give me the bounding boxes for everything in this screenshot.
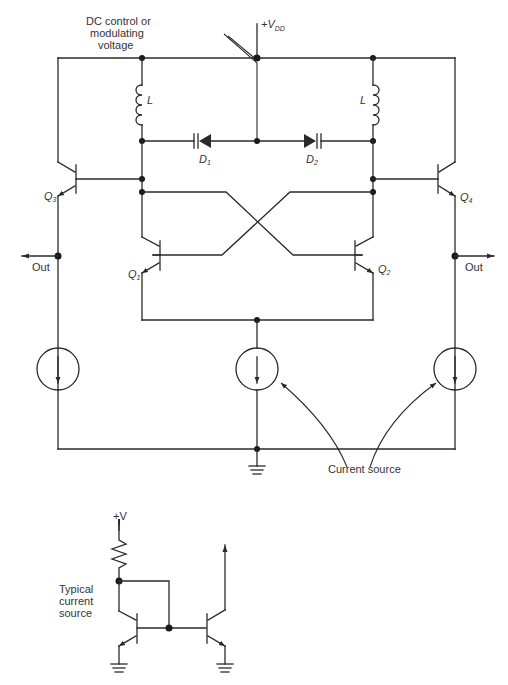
- out-right-label: Out: [465, 261, 483, 273]
- schematic-canvas: +VDD DC control or modulating voltage L …: [0, 0, 508, 685]
- transistor-q2: Q2: [355, 237, 391, 320]
- current-source-label: Current source: [328, 463, 401, 475]
- current-source-center: [236, 348, 278, 390]
- out-left-label: Out: [32, 261, 50, 273]
- output-right: Out: [452, 253, 495, 274]
- inductor-right: L: [360, 58, 379, 141]
- inductor-right-label: L: [360, 94, 366, 106]
- svg-text:voltage: voltage: [98, 39, 133, 51]
- dc-control-label: DC control or modulating voltage: [86, 15, 257, 143]
- vdd-supply: +VDD: [257, 18, 285, 58]
- ground-icon: [249, 449, 265, 474]
- vdd-label: +VDD: [261, 18, 285, 32]
- q1-label: Q1: [128, 268, 141, 281]
- svg-text:modulating: modulating: [90, 27, 144, 39]
- d1-label: D1: [199, 153, 211, 166]
- inductor-left-label: L: [147, 94, 153, 106]
- d2-label: D2: [306, 153, 318, 166]
- svg-text:current: current: [59, 595, 93, 607]
- svg-text:Typical: Typical: [59, 583, 93, 595]
- q3-label: Q3: [44, 190, 57, 203]
- varactor-d1: D1: [194, 134, 211, 166]
- svg-text:DC control or: DC control or: [86, 15, 151, 27]
- inductor-left: L: [136, 58, 153, 141]
- varactor-d2: D2: [304, 134, 321, 166]
- inset-current-source: +V Typical curren: [59, 510, 233, 672]
- transistor-q1: Q1: [128, 237, 160, 320]
- svg-text:source: source: [59, 607, 92, 619]
- q4-label: Q4: [460, 191, 473, 204]
- q2-label: Q2: [378, 263, 391, 276]
- current-source-callout: Current source: [281, 383, 436, 475]
- transistor-q3: Q3: [44, 58, 76, 390]
- transistor-q4: Q4: [438, 58, 473, 390]
- inset-supply-label: +V: [113, 510, 127, 522]
- output-left: Out: [22, 253, 62, 274]
